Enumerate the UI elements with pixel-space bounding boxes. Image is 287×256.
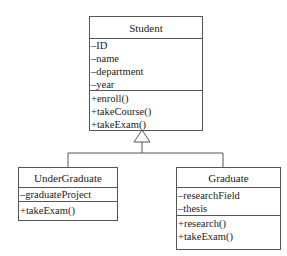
class-name: Student	[90, 17, 202, 39]
attribute: –department	[91, 65, 202, 78]
methods-section: +takeExam()	[19, 202, 117, 217]
attribute: –thesis	[178, 202, 280, 215]
methods-section: +enroll() +takeCourse() +takeExam()	[90, 91, 202, 131]
attribute: –name	[91, 52, 202, 65]
attribute: –ID	[91, 39, 202, 52]
attribute: –graduateProject	[20, 188, 117, 201]
class-name: UnderGraduate	[19, 168, 117, 188]
attributes-section: –ID –name –department –year	[90, 39, 202, 91]
attribute: –researchField	[178, 189, 280, 202]
method: +research()	[178, 217, 280, 230]
method: +takeExam()	[91, 118, 202, 131]
generalization-arrow-icon	[134, 130, 150, 142]
class-graduate[interactable]: Graduate –researchField –thesis +researc…	[176, 167, 281, 250]
class-student[interactable]: Student –ID –name –department –year +enr…	[89, 16, 203, 131]
method: +enroll()	[91, 92, 202, 105]
methods-section: +research() +takeExam()	[177, 216, 280, 243]
attribute: –year	[91, 78, 202, 91]
attributes-section: –researchField –thesis	[177, 188, 280, 216]
class-undergraduate[interactable]: UnderGraduate –graduateProject +takeExam…	[18, 167, 118, 221]
class-name: Graduate	[177, 168, 280, 188]
method: +takeExam()	[20, 204, 117, 217]
method: +takeCourse()	[91, 105, 202, 118]
attributes-section: –graduateProject	[19, 188, 117, 202]
method: +takeExam()	[178, 230, 280, 243]
